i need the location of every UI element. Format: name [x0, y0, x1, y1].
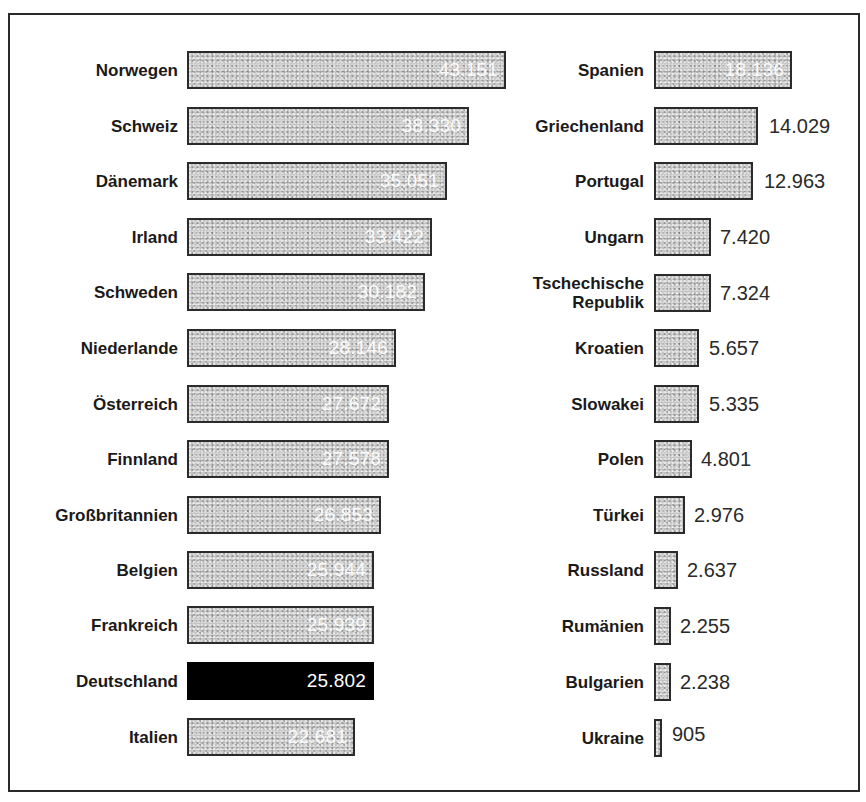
bar-row-bulgarien: Bulgarien 2.238 [0, 663, 866, 701]
bar-label: Ukraine [582, 719, 644, 757]
bar [654, 496, 685, 534]
bar-label: Polen [598, 440, 644, 478]
bar-value: 5.335 [709, 385, 759, 423]
bar-row-ungarn: Ungarn 7.420 [0, 218, 866, 256]
bar-value: 2.637 [687, 551, 737, 589]
bar-row-tschechische-republik: Tschechische Republik 7.324 [0, 274, 866, 312]
bar-label: Kroatien [575, 329, 644, 367]
bar-value: 5.657 [709, 329, 759, 367]
bar-label: Türkei [593, 496, 644, 534]
bar-label-line2: Republik [572, 293, 644, 312]
bar-value: 12.963 [764, 162, 825, 200]
bar [654, 607, 671, 645]
bar [654, 663, 671, 701]
bar-row-tuerkei: Türkei 2.976 [0, 496, 866, 534]
bar-label: Rumänien [562, 607, 644, 645]
bar: 18.136 [654, 51, 792, 89]
bar [654, 551, 678, 589]
bar [654, 329, 699, 367]
bar-label: Spanien [578, 51, 644, 89]
bar-row-portugal: Portugal 12.963 [0, 162, 866, 200]
bar-row-spanien: Spanien 18.136 [0, 51, 866, 89]
bar-label: Bulgarien [566, 663, 644, 701]
bar-value: 2.255 [680, 607, 730, 645]
bar [654, 162, 753, 200]
bar [654, 218, 711, 256]
bar-row-ukraine: Ukraine 905 [0, 719, 866, 757]
bar-label: Tschechische Republik [533, 270, 644, 316]
bar-value: 2.976 [694, 496, 744, 534]
bar-row-kroatien: Kroatien 5.657 [0, 329, 866, 367]
bar-label: Portugal [575, 162, 644, 200]
bar-label-line1: Tschechische [533, 274, 644, 293]
bar-value: 2.238 [680, 663, 730, 701]
bar-label: Ungarn [585, 218, 645, 256]
bar-row-rumaenien: Rumänien 2.255 [0, 607, 866, 645]
bar [654, 719, 662, 757]
bar-value: 7.420 [720, 218, 770, 256]
bar [654, 440, 692, 478]
bar-row-polen: Polen 4.801 [0, 440, 866, 478]
bar-row-slowakei: Slowakei 5.335 [0, 385, 866, 423]
bar [654, 274, 711, 312]
bar-value: 4.801 [701, 440, 751, 478]
bar-row-griechenland: Griechenland 14.029 [0, 107, 866, 145]
bar [654, 385, 699, 423]
bar-value: 905 [672, 715, 705, 753]
bar-row-russland: Russland 2.637 [0, 551, 866, 589]
bar-label: Russland [567, 551, 644, 589]
bar [654, 107, 758, 145]
bar-value: 14.029 [769, 107, 830, 145]
bar-label: Slowakei [571, 385, 644, 423]
bar-value: 7.324 [720, 274, 770, 312]
bar-value: 18.136 [725, 53, 784, 87]
bar-label: Griechenland [535, 107, 644, 145]
